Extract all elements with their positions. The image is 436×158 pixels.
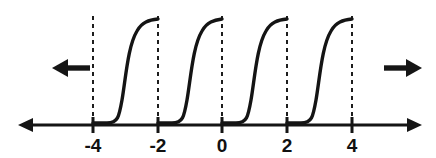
tick-label-neg4: -4 bbox=[85, 135, 102, 156]
tick-label-0: 0 bbox=[217, 135, 228, 156]
axis-right-arrowhead bbox=[407, 118, 422, 132]
left-continuation-arrow bbox=[52, 59, 90, 77]
left-arrow-icon bbox=[52, 59, 68, 77]
tick-label-neg2: -2 bbox=[150, 135, 167, 156]
right-arrow-icon bbox=[406, 59, 422, 77]
tick-label-2: 2 bbox=[282, 135, 293, 156]
figure-canvas: -4 -2 0 2 4 bbox=[0, 0, 436, 158]
step-curve-segment-4 bbox=[287, 19, 352, 123]
axis-left-arrowhead bbox=[18, 118, 33, 132]
step-curve-segment-3 bbox=[222, 19, 287, 123]
step-curve-segment-2 bbox=[158, 19, 222, 123]
tick-label-4: 4 bbox=[347, 135, 358, 156]
number-line-axis bbox=[18, 117, 422, 133]
step-function-number-line-figure: -4 -2 0 2 4 bbox=[0, 0, 436, 158]
right-continuation-arrow bbox=[384, 59, 422, 77]
axis-tick-labels: -4 -2 0 2 4 bbox=[85, 135, 358, 156]
step-curve-segment-1 bbox=[93, 19, 158, 123]
